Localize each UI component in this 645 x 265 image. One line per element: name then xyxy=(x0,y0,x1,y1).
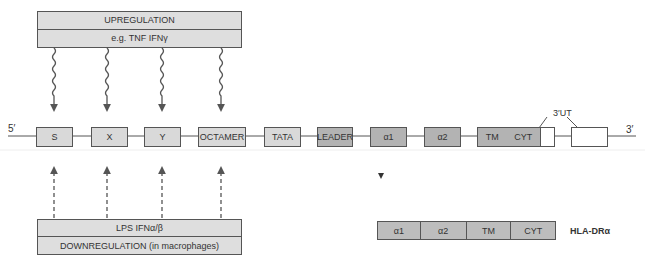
protein-label: HLA-DRα xyxy=(570,226,610,236)
three-prime-label: 3′ xyxy=(626,124,633,135)
utr-label: 3′UT xyxy=(553,108,572,118)
five-prime-label: 5′ xyxy=(8,123,15,134)
element-tm-cyt: TM CYT xyxy=(477,127,541,147)
domain-tm: TM xyxy=(467,222,512,239)
wavy-arrow-x xyxy=(106,48,109,108)
protein-domains: α1 α2 TM CYT xyxy=(377,221,556,240)
utr-box-2 xyxy=(571,127,608,147)
element-leader: LEADER xyxy=(317,127,353,147)
element-alpha1: α1 xyxy=(370,127,407,147)
element-s: S xyxy=(36,127,73,147)
wavy-arrow-s xyxy=(53,48,56,108)
utr-box-1 xyxy=(540,127,555,147)
element-tm: TM xyxy=(486,132,499,142)
element-octamer: OCTAMER xyxy=(198,127,246,147)
element-alpha2: α2 xyxy=(424,127,461,147)
domain-alpha2: α2 xyxy=(421,222,467,239)
wavy-arrow-y xyxy=(161,48,164,108)
downregulation-factors: LPS IFNα/β xyxy=(38,220,241,237)
element-y: Y xyxy=(144,127,181,147)
downregulation-title: DOWNREGULATION (in macrophages) xyxy=(38,237,241,254)
downregulation-panel: LPS IFNα/β DOWNREGULATION (in macrophage… xyxy=(37,219,242,255)
domain-alpha1: α1 xyxy=(378,222,421,239)
element-cyt: CYT xyxy=(514,132,532,142)
domain-cyt: CYT xyxy=(511,222,555,239)
triangle-marker-icon xyxy=(378,173,384,179)
wavy-arrow-octamer xyxy=(220,48,223,108)
element-x: X xyxy=(91,127,128,147)
element-tata: TATA xyxy=(264,127,301,147)
